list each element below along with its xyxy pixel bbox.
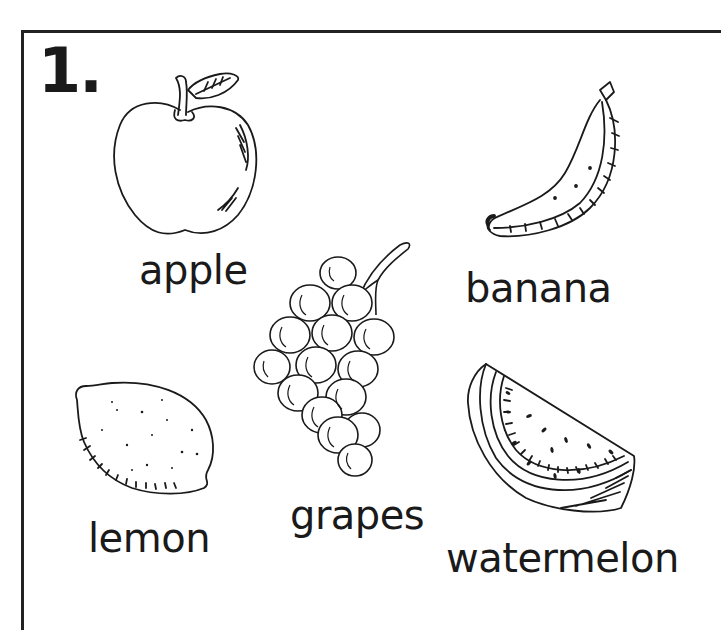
watermelon-label: watermelon	[446, 538, 679, 578]
watermelon-icon	[466, 358, 646, 518]
grapes-icon	[250, 235, 420, 480]
lemon-icon	[72, 380, 222, 498]
lemon-label: lemon	[88, 518, 210, 558]
grapes-label: grapes	[290, 495, 424, 535]
banana-label: banana	[465, 268, 612, 308]
banana-icon	[480, 78, 630, 248]
apple-label: apple	[139, 250, 248, 290]
section-number: 1.	[38, 40, 101, 102]
apple-icon	[100, 70, 270, 245]
